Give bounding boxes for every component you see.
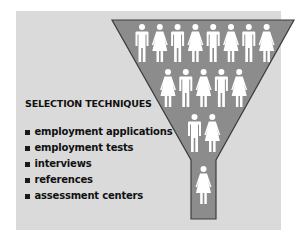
square-bullet-icon [25,162,30,167]
technique-item: references [25,172,172,188]
technique-item: employment applications [25,124,172,140]
square-bullet-icon [25,146,30,151]
square-bullet-icon [25,130,30,135]
selection-funnel [0,0,308,241]
square-bullet-icon [25,194,30,199]
diagram-title: SELECTION TECHNIQUES [25,98,152,109]
technique-item: employment tests [25,140,172,156]
technique-item: interviews [25,156,172,172]
technique-item: assessment centers [25,188,172,204]
square-bullet-icon [25,178,30,183]
technique-list: employment applications employment tests… [25,124,172,204]
